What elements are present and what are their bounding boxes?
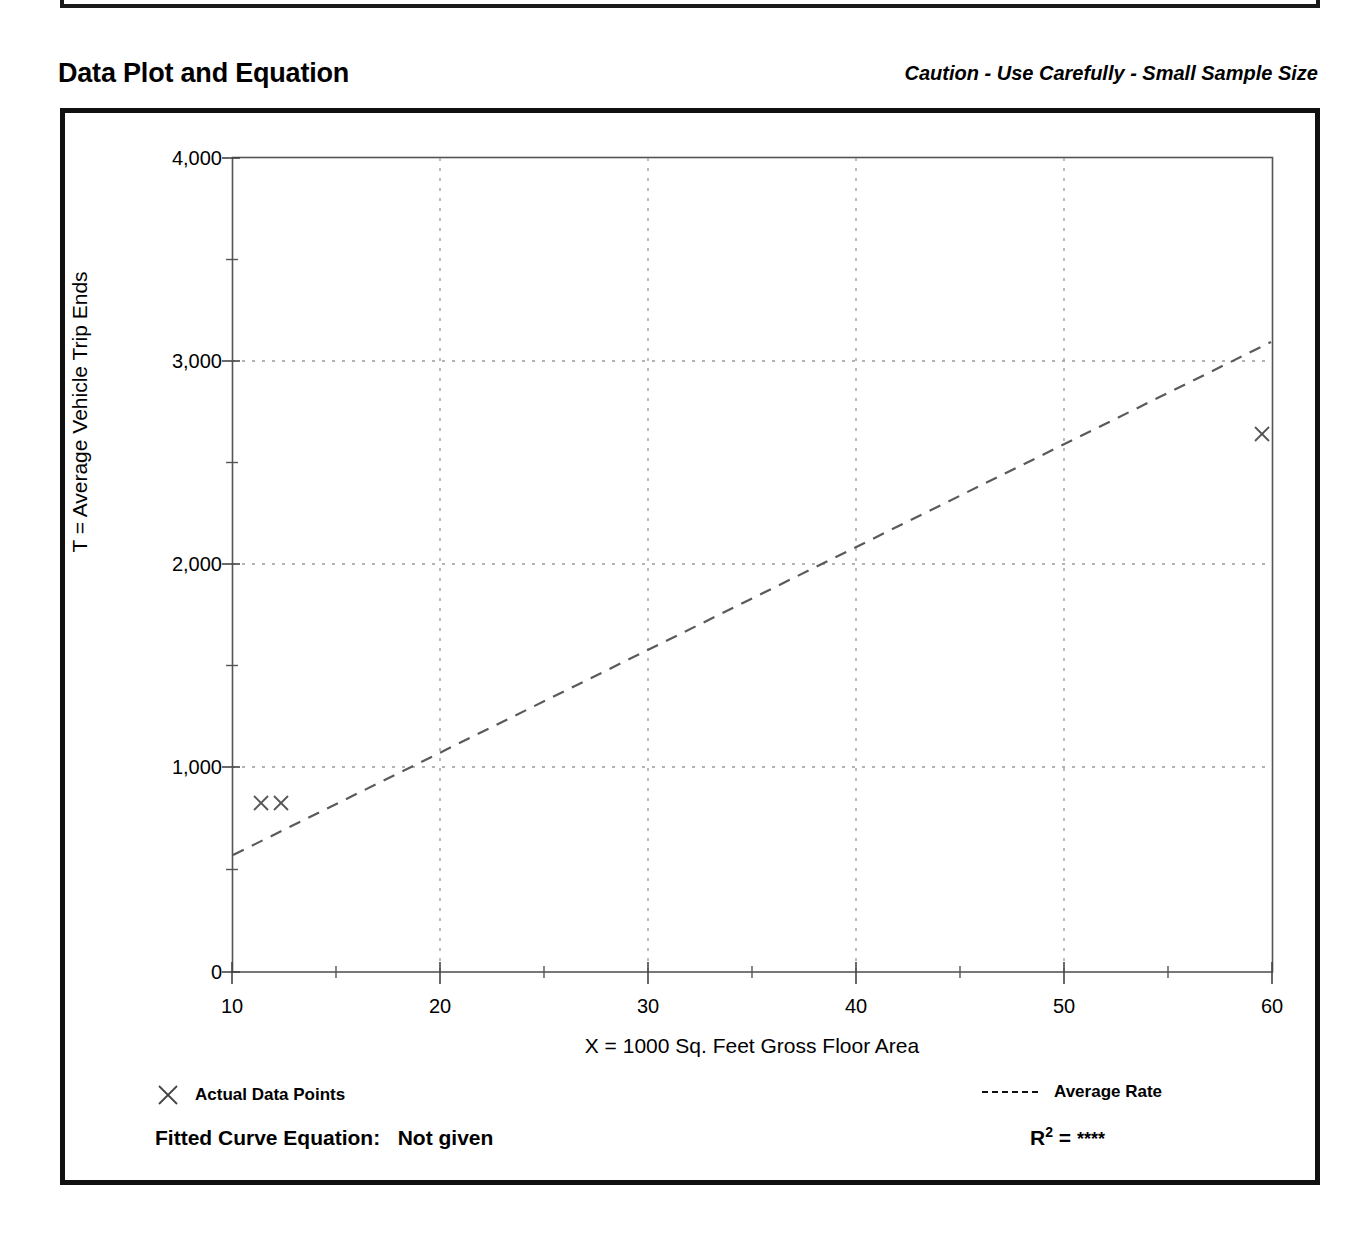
- page-title: Data Plot and Equation: [58, 58, 349, 89]
- top-page-box-remnant: [60, 0, 1320, 8]
- caution-note: Caution - Use Carefully - Small Sample S…: [905, 62, 1318, 85]
- header: Data Plot and Equation Caution - Use Car…: [0, 58, 1370, 100]
- chart-panel: [60, 108, 1320, 1185]
